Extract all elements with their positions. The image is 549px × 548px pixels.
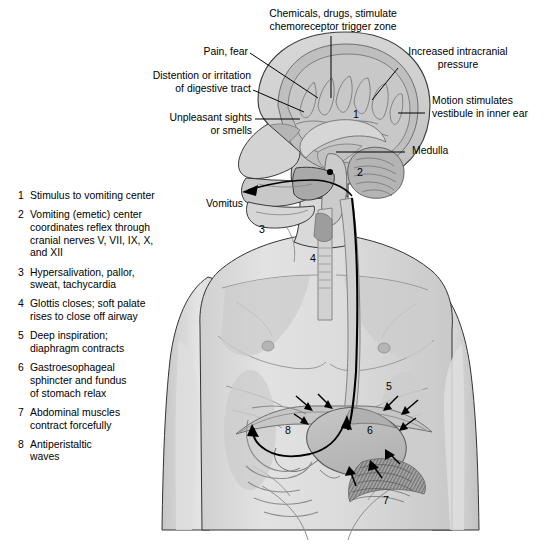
legend-label: Hypersalivation, pallor, sweat, tachycar…: [30, 267, 208, 292]
callout-vomitus: Vomitus: [206, 198, 276, 211]
callout-distention-irritation: Distention or irritation of digestive tr…: [135, 70, 251, 95]
callout-pain-fear: Pain, fear: [150, 46, 248, 59]
medulla-center-dot: [327, 169, 333, 175]
legend-label: Antiperistaltic waves: [30, 439, 208, 464]
legend-list: 1 Stimulus to vomiting center 2 Vomiting…: [18, 190, 208, 471]
legend-number: 6: [18, 362, 30, 400]
legend-label: Stimulus to vomiting center: [30, 190, 208, 203]
legend-label: Vomiting (emetic) center coordinates ref…: [30, 209, 208, 260]
callout-chemicals-drugs: Chemicals, drugs, stimulate chemorecepto…: [253, 8, 413, 33]
marker-7-abdominal: 7: [383, 494, 389, 506]
marker-1-brain: 1: [353, 108, 359, 120]
marker-2-medulla: 2: [357, 166, 363, 178]
legend-item-4: 4 Glottis closes; soft palate rises to c…: [18, 298, 208, 323]
legend-number: 7: [18, 407, 30, 432]
legend-label: Abdominal muscles contract forcefully: [30, 407, 208, 432]
callout-unpleasant-sights: Unpleasant sights or smells: [140, 112, 252, 137]
legend-item-1: 1 Stimulus to vomiting center: [18, 190, 208, 203]
legend-item-8: 8 Antiperistaltic waves: [18, 439, 208, 464]
marker-8-intestine: 8: [285, 424, 291, 436]
legend-item-6: 6 Gastroesophageal sphincter and fundus …: [18, 362, 208, 400]
legend-label: Deep inspiration; diaphragm contracts: [30, 330, 208, 355]
legend-number: 1: [18, 190, 30, 203]
legend-number: 2: [18, 209, 30, 260]
legend-label: Gastroesophageal sphincter and fundus of…: [30, 362, 208, 400]
legend-item-3: 3 Hypersalivation, pallor, sweat, tachyc…: [18, 267, 208, 292]
legend-item-7: 7 Abdominal muscles contract forcefully: [18, 407, 208, 432]
marker-5-diaphragm: 5: [386, 380, 392, 392]
callout-motion-stimulates-vestibule: Motion stimulates vestibule in inner ear: [432, 95, 549, 120]
legend-number: 3: [18, 267, 30, 292]
callout-medulla: Medulla: [412, 145, 492, 158]
legend-number: 5: [18, 330, 30, 355]
marker-6-stomach: 6: [367, 424, 373, 436]
legend-label: Glottis closes; soft palate rises to clo…: [30, 298, 208, 323]
legend-item-5: 5 Deep inspiration; diaphragm contracts: [18, 330, 208, 355]
glottis: [314, 213, 332, 241]
legend-item-2: 2 Vomiting (emetic) center coordinates r…: [18, 209, 208, 260]
marker-4-glottis: 4: [310, 252, 316, 264]
legend-number: 8: [18, 439, 30, 464]
marker-3-neck: 3: [259, 223, 265, 235]
callout-increased-intracranial-pressure: Increased intracranial pressure: [392, 46, 524, 71]
legend-number: 4: [18, 298, 30, 323]
